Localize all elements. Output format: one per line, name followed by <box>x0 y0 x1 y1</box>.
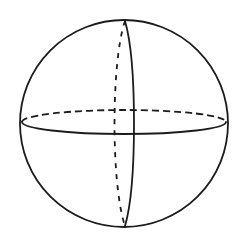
sphere-outline <box>20 20 228 227</box>
back-meridian-dashed <box>115 21 126 226</box>
equator-back-arc-dashed <box>22 110 226 122</box>
equator-front-arc-solid <box>22 122 226 134</box>
front-meridian-solid <box>125 21 134 226</box>
sphere-figure-canvas <box>0 0 249 240</box>
sphere-diagram-svg <box>0 0 249 240</box>
